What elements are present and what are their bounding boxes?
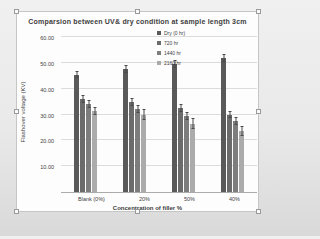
selection-handle-bottom-left[interactable] [14,209,19,214]
bar [178,108,183,192]
bar [80,99,85,192]
bar [123,69,128,192]
error-bar [93,107,96,115]
error-bar-errcap-b [75,77,78,78]
legend-entry: 1440 hr [157,49,185,56]
error-bar-errcap-b [130,105,133,106]
selection-handle-left[interactable] [14,109,19,114]
y-tick-label: 40.00 [40,87,54,93]
selection-handle-top[interactable] [135,9,140,14]
bar [86,104,91,192]
x-tick-label: 50% [184,196,195,202]
bar [227,115,232,193]
error-bar-errcap-b [93,114,96,115]
x-tick-label: 20% [139,196,150,202]
error-bar [75,71,78,79]
y-tick-label: 50.00 [40,61,54,67]
error-bar-errcap-b [179,111,182,112]
error-bar [185,112,188,120]
bar [239,131,244,192]
error-bar [179,104,182,112]
legend-entry: 2160 hr [157,59,185,66]
error-bar [81,95,84,103]
x-axis-tick-labels: Blank (0%)20%50%40% [61,196,257,202]
error-bar-errcap-b [222,61,225,62]
bar-group [221,58,244,192]
bar-group [172,64,195,192]
chart-legend: Dry (0 hr)720 hr1440 hr2160 hr [157,29,185,69]
legend-entry: Dry (0 hr) [157,29,185,36]
legend-label: 720 hr [164,40,178,46]
error-bar [124,65,127,73]
selection-handle-bottom[interactable] [135,209,140,214]
bar [92,111,97,192]
error-bar-errcap-b [142,119,145,120]
selection-handle-right[interactable] [256,109,261,114]
error-bar [222,54,225,62]
x-tick-label: Blank (0%) [78,196,105,202]
error-bar [191,118,194,128]
error-bar-errcap-b [228,117,231,118]
error-bar [136,105,139,113]
selection-handle-top-right[interactable] [256,9,261,14]
y-tick-label: 10.00 [40,164,54,170]
y-tick-label: 20.00 [40,138,54,144]
error-bar-errcap-b [81,102,84,103]
selection-handle-top-left[interactable] [14,9,19,14]
y-axis-tick-labels: 60.0050.0040.0030.0020.0010.00 [17,38,57,193]
error-bar-errcap-b [185,119,188,120]
error-bar-errcap-b [234,124,237,125]
bar [184,116,189,192]
bar [221,58,226,192]
error-bar [130,98,133,106]
legend-marker-icon [157,31,161,35]
x-axis-title: Concentration of filler % [47,205,248,211]
error-bar-errcap-b [136,112,139,113]
error-bar-errcap-b [240,135,243,136]
chart-title: Comparsion between UV& dry condition at … [25,18,250,25]
bar [190,124,195,193]
chart-figure[interactable]: Comparsion between UV& dry condition at … [16,11,259,212]
legend-marker-icon [157,51,161,55]
legend-entry: 720 hr [157,39,185,46]
bar [172,64,177,192]
selection-handle-bottom-right[interactable] [256,209,261,214]
bar [129,102,134,192]
legend-marker-icon [157,61,161,65]
legend-label: Dry (0 hr) [164,30,185,36]
bar [135,109,140,192]
legend-marker-icon [157,41,161,45]
bar-group [123,69,146,192]
bar [141,115,146,193]
bar [74,75,79,193]
error-bar-errcap-b [124,72,127,73]
error-bar [228,111,231,119]
error-bar-errcap-b [191,128,194,129]
legend-label: 1440 hr [164,50,181,56]
legend-label: 2160 hr [164,60,181,66]
bar-group [74,75,97,193]
y-tick-label: 60.00 [40,35,54,41]
error-bar [240,126,243,136]
error-bar-errcap-b [87,107,90,108]
y-tick-label: 30.00 [40,113,54,119]
error-bar [87,100,90,108]
x-tick-label: 40% [229,196,240,202]
bar [233,121,238,192]
error-bar [234,117,237,125]
error-bar [142,109,145,119]
